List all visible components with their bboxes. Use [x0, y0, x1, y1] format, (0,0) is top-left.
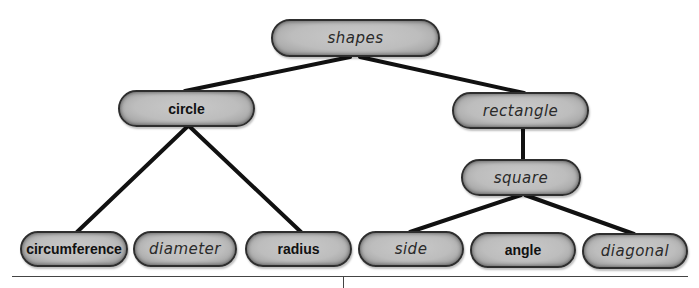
edge-square-side [410, 195, 521, 232]
node-label: rectangle [483, 102, 559, 120]
horizontal-rule [12, 276, 688, 277]
edge-shapes-circle [185, 57, 350, 91]
node-angle: angle [470, 232, 576, 268]
node-rectangle: rectangle [452, 92, 589, 129]
node-label: circle [168, 101, 205, 117]
node-circumference: circumference [20, 231, 128, 267]
column-divider [343, 277, 344, 288]
node-diameter: diameter [133, 231, 237, 267]
node-diagonal: diagonal [582, 233, 688, 269]
node-label: square [494, 169, 548, 187]
edge-shapes-rectangle [360, 57, 524, 93]
node-label: diameter [149, 240, 221, 258]
edge-square-diagonal [525, 195, 634, 234]
edge-circle-radius [189, 126, 301, 232]
edge-circle-circumference [77, 126, 188, 232]
node-label: side [395, 240, 428, 258]
node-square: square [461, 159, 581, 196]
node-circle: circle [118, 90, 255, 127]
node-label: angle [505, 242, 542, 258]
node-label: diagonal [601, 242, 669, 260]
concept-tree-diagram: shapes circle rectangle square circumfer… [0, 0, 699, 288]
node-label: radius [277, 241, 319, 257]
node-label: circumference [26, 241, 122, 257]
node-side: side [358, 231, 464, 267]
node-shapes: shapes [271, 19, 440, 57]
node-label: shapes [327, 29, 383, 47]
node-radius: radius [245, 231, 352, 267]
